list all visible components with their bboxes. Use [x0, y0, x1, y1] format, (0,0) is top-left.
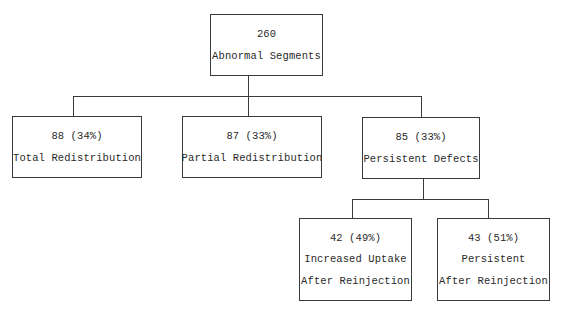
- connector-level2-bar: [352, 199, 489, 200]
- connector-to-total: [73, 96, 74, 116]
- node-label-line2: After Reinjection: [439, 276, 548, 287]
- connector-to-partial: [248, 96, 249, 116]
- node-value: 260: [257, 29, 276, 40]
- connector-to-persistent: [421, 96, 422, 117]
- node-increased-uptake: 42 (49%) Increased Uptake After Reinject…: [299, 218, 412, 301]
- node-label-line1: Persistent: [461, 254, 525, 265]
- node-value: 87 (33%): [226, 131, 277, 142]
- node-label: Total Redistribution: [13, 153, 141, 164]
- node-abnormal-segments: 260 Abnormal Segments: [210, 14, 323, 76]
- connector-to-persistent-after: [488, 199, 489, 218]
- node-value: 42 (49%): [330, 233, 381, 244]
- node-total-redistribution: 88 (34%) Total Redistribution: [12, 116, 142, 178]
- node-value: 43 (51%): [468, 233, 519, 244]
- connector-to-increased: [352, 199, 353, 218]
- node-persistent-defects: 85 (33%) Persistent Defects: [362, 117, 480, 179]
- node-label-line2: After Reinjection: [301, 276, 410, 287]
- connector-level1-bar: [73, 96, 421, 97]
- node-label-line1: Increased Uptake: [304, 254, 406, 265]
- connector-root-down: [248, 76, 249, 96]
- connector-persistent-down: [423, 179, 424, 199]
- node-value: 88 (34%): [51, 131, 102, 142]
- node-persistent-after-reinjection: 43 (51%) Persistent After Reinjection: [437, 218, 550, 301]
- node-partial-redistribution: 87 (33%) Partial Redistribution: [182, 116, 322, 178]
- node-label: Partial Redistribution: [182, 153, 323, 164]
- node-label: Abnormal Segments: [212, 51, 321, 62]
- node-value: 85 (33%): [395, 132, 446, 143]
- node-label: Persistent Defects: [363, 154, 478, 165]
